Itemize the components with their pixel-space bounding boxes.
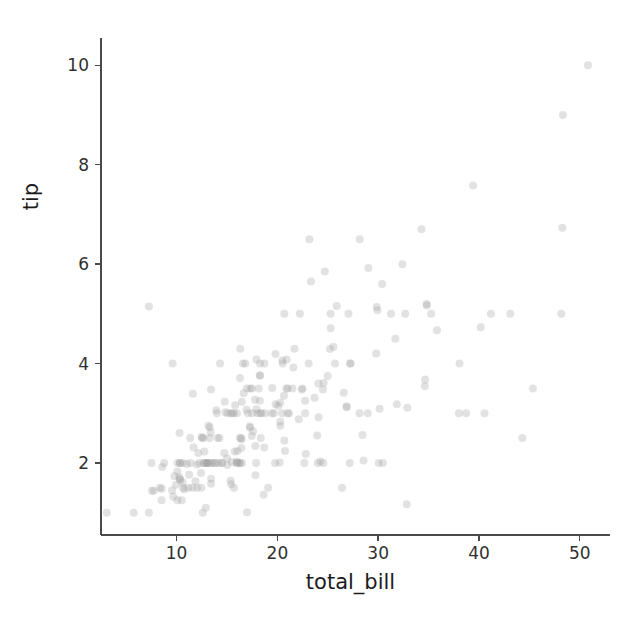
data-point	[130, 509, 138, 517]
data-point	[481, 409, 489, 417]
data-point	[207, 385, 215, 393]
data-point	[280, 392, 288, 400]
data-point	[418, 225, 426, 233]
data-point	[271, 459, 279, 467]
data-point	[378, 280, 386, 288]
data-point	[333, 302, 341, 310]
data-point	[302, 450, 310, 458]
data-point	[260, 444, 268, 452]
y-tick-label: 10	[67, 55, 89, 75]
data-point	[403, 404, 411, 412]
data-point	[331, 360, 339, 368]
data-point	[281, 447, 289, 455]
data-point	[282, 384, 290, 392]
data-point	[194, 449, 202, 457]
data-point	[255, 384, 263, 392]
data-point	[307, 278, 315, 286]
x-tick-label: 20	[267, 543, 289, 563]
y-axis-ticks: 246810	[67, 55, 101, 473]
data-point	[487, 310, 495, 318]
data-point	[276, 418, 284, 426]
data-point	[338, 484, 346, 492]
data-point	[197, 484, 205, 492]
data-point	[427, 310, 435, 318]
data-point	[236, 345, 244, 353]
data-point	[176, 429, 184, 437]
data-point	[557, 310, 565, 318]
data-point	[230, 484, 238, 492]
data-point	[356, 409, 364, 417]
data-point	[456, 360, 464, 368]
data-point	[261, 409, 269, 417]
y-tick-label: 8	[78, 155, 89, 175]
data-point	[313, 432, 321, 440]
data-point	[213, 409, 221, 417]
data-point	[246, 422, 254, 430]
y-tick-label: 2	[78, 453, 89, 473]
data-point	[298, 385, 306, 393]
x-axis-ticks: 1020304050	[166, 535, 591, 563]
data-point	[280, 310, 288, 318]
data-point	[227, 477, 235, 485]
data-point	[529, 384, 537, 392]
data-point	[180, 485, 188, 493]
data-point	[310, 394, 318, 402]
data-point	[186, 434, 194, 442]
data-point	[295, 415, 303, 423]
data-point	[158, 463, 166, 471]
data-point	[403, 500, 411, 508]
data-point	[170, 472, 178, 480]
data-point	[477, 323, 485, 331]
data-point	[158, 496, 166, 504]
data-point	[462, 409, 470, 417]
x-tick-label: 30	[367, 543, 389, 563]
data-point	[314, 459, 322, 467]
data-point	[248, 384, 256, 392]
x-tick-label: 40	[468, 543, 490, 563]
data-point	[356, 235, 364, 243]
data-point	[340, 389, 348, 397]
data-points-layer	[103, 61, 592, 516]
data-point	[169, 360, 177, 368]
data-point	[506, 310, 514, 318]
data-point	[256, 371, 264, 379]
data-point	[423, 301, 431, 309]
data-point	[214, 434, 222, 442]
data-point	[189, 390, 197, 398]
data-point	[324, 372, 332, 380]
data-point	[433, 326, 441, 334]
data-point	[376, 405, 384, 413]
data-point	[279, 360, 287, 368]
data-point	[243, 508, 251, 516]
data-point	[256, 397, 264, 405]
data-point	[251, 471, 259, 479]
data-point	[360, 456, 368, 464]
data-point	[343, 402, 351, 410]
data-point	[203, 459, 211, 467]
data-point	[257, 434, 265, 442]
data-point	[185, 471, 193, 479]
y-tick-label: 6	[78, 254, 89, 274]
data-point	[206, 423, 214, 431]
data-point	[398, 260, 406, 268]
data-point	[145, 302, 153, 310]
data-point	[218, 459, 226, 467]
data-point	[364, 409, 372, 417]
data-point	[358, 431, 366, 439]
data-point	[289, 364, 297, 372]
data-point	[216, 360, 224, 368]
data-point	[239, 360, 247, 368]
data-point	[187, 459, 195, 467]
data-point	[207, 480, 215, 488]
data-point	[301, 409, 309, 417]
y-tick-label: 4	[78, 354, 89, 374]
data-point	[469, 182, 477, 190]
data-point	[291, 345, 299, 353]
data-point	[558, 224, 566, 232]
data-point	[401, 310, 409, 318]
data-point	[240, 389, 248, 397]
data-point	[252, 459, 260, 467]
data-point	[296, 310, 304, 318]
data-point	[346, 459, 354, 467]
data-point	[248, 409, 256, 417]
